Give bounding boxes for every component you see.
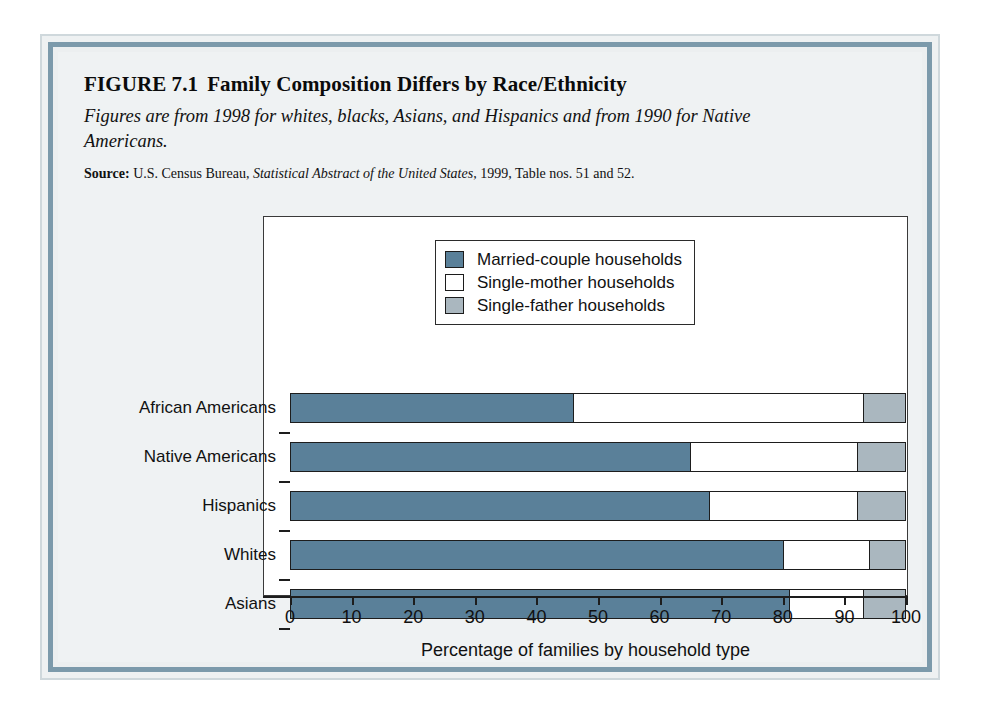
x-axis-tick-label: 80 — [773, 607, 793, 628]
x-axis-title: Percentage of families by household type — [263, 640, 908, 661]
x-axis-tick-label: 20 — [403, 607, 423, 628]
x-axis-tick-label: 10 — [342, 607, 362, 628]
bar-segment — [709, 491, 857, 521]
x-axis-tick-label: 60 — [650, 607, 670, 628]
bar-segment — [869, 540, 906, 570]
x-axis-tick — [290, 596, 292, 605]
x-axis-tick-label: 0 — [285, 607, 295, 628]
y-axis-tick — [279, 432, 290, 434]
category-label: African Americans — [139, 398, 276, 418]
category-label: Hispanics — [202, 496, 276, 516]
y-axis-tick — [279, 579, 290, 581]
y-axis-tick — [279, 481, 290, 483]
category-label: Whites — [224, 545, 276, 565]
x-axis-tick-label: 70 — [711, 607, 731, 628]
bar-segment — [690, 442, 856, 472]
bar-segment — [290, 540, 783, 570]
source-text-2: 1999, Table nos. 51 and 52. — [480, 166, 634, 181]
bar-segment — [857, 491, 906, 521]
x-axis-tick — [475, 596, 477, 605]
figure-inner-border: FIGURE 7.1Family Composition Differs by … — [48, 42, 932, 672]
figure-content: FIGURE 7.1Family Composition Differs by … — [58, 52, 922, 662]
bar-segment — [857, 442, 906, 472]
source-label: Source: — [84, 166, 130, 181]
figure-number: FIGURE 7.1 — [84, 72, 198, 96]
y-axis-tick — [279, 530, 290, 532]
x-axis-tick — [352, 596, 354, 605]
bar-segment — [863, 393, 906, 423]
x-axis-line — [263, 596, 908, 598]
x-axis-tick-label: 100 — [891, 607, 921, 628]
figure-title: FIGURE 7.1Family Composition Differs by … — [84, 72, 896, 97]
source-publication: Statistical Abstract of the United State… — [253, 166, 477, 181]
x-axis-tick — [783, 596, 785, 605]
figure-source: Source: U.S. Census Bureau, Statistical … — [84, 166, 896, 182]
x-axis-tick — [598, 596, 600, 605]
bar-segment — [290, 442, 690, 472]
x-axis-tick — [844, 596, 846, 605]
category-label: Native Americans — [144, 447, 276, 467]
bar-segment — [290, 491, 709, 521]
figure-subtitle: Figures are from 1998 for whites, blacks… — [84, 104, 784, 154]
x-axis-tick — [721, 596, 723, 605]
bar-row — [290, 540, 906, 570]
chart-plot-area: Married-couple households Single-mother … — [263, 216, 908, 596]
x-axis-tick — [536, 596, 538, 605]
x-axis-tick-label: 90 — [834, 607, 854, 628]
x-axis-tick — [413, 596, 415, 605]
bar-row — [290, 393, 906, 423]
bar-segment — [290, 393, 573, 423]
x-axis-tick-label: 40 — [526, 607, 546, 628]
x-axis-tick — [906, 596, 908, 605]
bar-segment — [573, 393, 863, 423]
figure-outer-frame: FIGURE 7.1Family Composition Differs by … — [40, 34, 940, 680]
x-axis-tick — [660, 596, 662, 605]
bars-layer: African AmericansNative AmericansHispani… — [263, 216, 908, 596]
source-text-1: U.S. Census Bureau, — [133, 166, 249, 181]
figure-title-text: Family Composition Differs by Race/Ethni… — [207, 72, 627, 96]
x-axis-tick-label: 30 — [465, 607, 485, 628]
y-axis-tick — [279, 628, 290, 630]
bar-row — [290, 442, 906, 472]
x-axis-tick-label: 50 — [588, 607, 608, 628]
figure-page: FIGURE 7.1Family Composition Differs by … — [0, 0, 985, 722]
bar-row — [290, 491, 906, 521]
bar-segment — [783, 540, 869, 570]
